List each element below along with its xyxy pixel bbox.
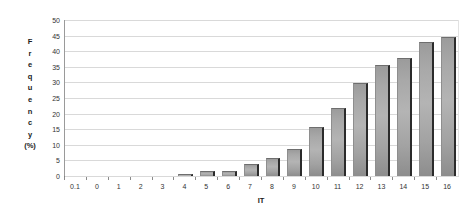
bar-slot bbox=[153, 20, 175, 176]
x-axis-tick-labels: 0.1012345678910111213141516 bbox=[64, 183, 458, 190]
x-axis-tick-label: 3 bbox=[152, 183, 174, 190]
bar-slot bbox=[306, 20, 328, 176]
y-axis-tick-label: 0 bbox=[38, 173, 60, 180]
x-axis-tick-label: 6 bbox=[217, 183, 239, 190]
bar bbox=[397, 58, 412, 176]
x-axis-tick bbox=[86, 177, 108, 181]
bar bbox=[178, 174, 193, 176]
bar-slot bbox=[218, 20, 240, 176]
x-axis-tick bbox=[436, 177, 458, 181]
bar bbox=[419, 42, 434, 176]
bar-slot bbox=[109, 20, 131, 176]
bar-slot bbox=[240, 20, 262, 176]
y-axis-tick-label: 45 bbox=[38, 32, 60, 39]
bar-slot bbox=[393, 20, 415, 176]
bar bbox=[309, 127, 324, 176]
y-axis-tick-label: 40 bbox=[38, 48, 60, 55]
x-axis-tick bbox=[414, 177, 436, 181]
x-axis-tick-label: 11 bbox=[327, 183, 349, 190]
x-axis-tick bbox=[305, 177, 327, 181]
bar-slot bbox=[65, 20, 87, 176]
bar bbox=[331, 108, 346, 176]
y-axis-tick-label: 10 bbox=[38, 141, 60, 148]
x-axis-tick bbox=[195, 177, 217, 181]
x-axis-tick-label: 1 bbox=[108, 183, 130, 190]
x-axis-tick-label: 7 bbox=[239, 183, 261, 190]
x-axis-tick-label: 16 bbox=[436, 183, 458, 190]
x-axis-tick bbox=[261, 177, 283, 181]
bar bbox=[287, 149, 302, 176]
bar-chart: F r e q u e n c y (%) 051015202530354045… bbox=[0, 0, 474, 216]
x-axis-tick-label: 14 bbox=[392, 183, 414, 190]
x-axis-tick bbox=[392, 177, 414, 181]
bar bbox=[200, 171, 215, 176]
x-axis-tick-label: 15 bbox=[414, 183, 436, 190]
bar-slot bbox=[415, 20, 437, 176]
x-axis-tick-label: 12 bbox=[349, 183, 371, 190]
x-axis-tick-label: 8 bbox=[261, 183, 283, 190]
bar bbox=[266, 158, 281, 176]
y-axis-tick-label: 5 bbox=[38, 157, 60, 164]
bar bbox=[375, 65, 390, 176]
bar-slot bbox=[328, 20, 350, 176]
x-axis-tick bbox=[152, 177, 174, 181]
y-axis-tick-label: 30 bbox=[38, 79, 60, 86]
bar-slot bbox=[437, 20, 459, 176]
x-axis-ticks bbox=[64, 177, 458, 181]
y-axis-tick-label: 25 bbox=[38, 95, 60, 102]
bar-slot bbox=[371, 20, 393, 176]
x-axis-tick-label: 13 bbox=[370, 183, 392, 190]
x-axis-tick-label: 9 bbox=[283, 183, 305, 190]
y-axis-tick-label: 35 bbox=[38, 63, 60, 70]
bar-slot bbox=[350, 20, 372, 176]
y-axis-tick-labels: 05101520253035404550 bbox=[38, 0, 60, 216]
x-axis-tick bbox=[370, 177, 392, 181]
bar bbox=[441, 37, 456, 176]
bar bbox=[244, 164, 259, 176]
bar-slot bbox=[196, 20, 218, 176]
y-axis-tick-label: 15 bbox=[38, 126, 60, 133]
bars-layer bbox=[65, 20, 459, 176]
y-axis-tick-label: 50 bbox=[38, 17, 60, 24]
x-axis-tick bbox=[239, 177, 261, 181]
x-axis-tick bbox=[108, 177, 130, 181]
x-axis-title: IT bbox=[64, 196, 458, 205]
x-axis-tick bbox=[64, 177, 86, 181]
x-axis-tick-label: 0.1 bbox=[64, 183, 86, 190]
bar-slot bbox=[131, 20, 153, 176]
x-axis-tick-label: 0 bbox=[86, 183, 108, 190]
x-axis-tick-label: 2 bbox=[130, 183, 152, 190]
bar bbox=[353, 83, 368, 176]
x-axis-tick bbox=[283, 177, 305, 181]
bar-slot bbox=[174, 20, 196, 176]
x-axis-tick bbox=[349, 177, 371, 181]
x-axis-tick bbox=[217, 177, 239, 181]
bar-slot bbox=[284, 20, 306, 176]
x-axis-tick-label: 10 bbox=[305, 183, 327, 190]
bar-slot bbox=[262, 20, 284, 176]
x-axis-tick bbox=[173, 177, 195, 181]
x-axis-tick bbox=[327, 177, 349, 181]
plot-area bbox=[64, 20, 459, 177]
x-axis-tick bbox=[130, 177, 152, 181]
bar-slot bbox=[87, 20, 109, 176]
bar bbox=[222, 171, 237, 176]
x-axis-tick-label: 4 bbox=[173, 183, 195, 190]
y-axis-tick-label: 20 bbox=[38, 110, 60, 117]
x-axis-tick-label: 5 bbox=[195, 183, 217, 190]
